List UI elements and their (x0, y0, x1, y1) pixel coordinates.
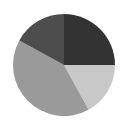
pie-chart-svg (0, 0, 125, 129)
pie-slice-1 (64, 14, 115, 65)
pie-chart (0, 0, 125, 129)
